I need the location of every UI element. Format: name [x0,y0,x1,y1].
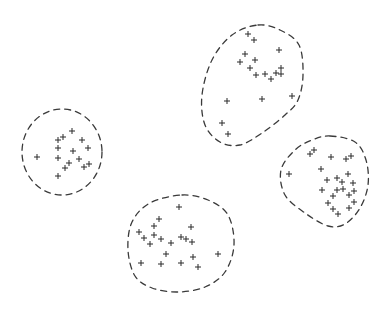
cluster-points [34,31,357,270]
cluster-boundary-bottom [128,195,234,292]
plus-marker-left-7 [34,154,40,160]
cluster-boundary-left [22,109,102,195]
plus-marker-bottom-10 [189,239,195,245]
plus-marker-right-5 [286,171,292,177]
plus-marker-left-3 [79,137,85,143]
plus-marker-top-right-14 [259,96,265,102]
plus-marker-left-11 [86,161,92,167]
plus-marker-bottom-0 [176,204,182,210]
plus-marker-right-11 [350,180,356,186]
plus-marker-right-13 [334,187,340,193]
plus-marker-bottom-12 [168,240,174,246]
plus-marker-right-1 [311,147,317,153]
plus-marker-bottom-13 [163,251,169,257]
cluster-boundary-top-right [202,25,304,146]
cluster-boundaries [22,25,368,292]
plus-marker-top-right-8 [253,72,259,78]
plus-marker-top-right-1 [251,37,257,43]
plus-marker-right-16 [330,193,336,199]
plus-marker-top-right-10 [273,70,279,76]
plus-marker-left-9 [76,156,82,162]
plus-marker-top-right-7 [278,65,284,71]
plus-marker-left-1 [60,134,66,140]
cluster-diagram [0,0,390,319]
plus-marker-bottom-7 [158,236,164,242]
plus-marker-bottom-11 [147,241,153,247]
plus-marker-right-21 [346,205,352,211]
plus-marker-left-8 [55,155,61,161]
plus-marker-bottom-3 [188,224,194,230]
plus-marker-bottom-17 [158,261,164,267]
plus-marker-right-15 [351,188,357,194]
plus-marker-left-13 [81,164,87,170]
plus-marker-bottom-15 [215,251,221,257]
plus-marker-left-4 [55,145,61,151]
plus-marker-left-2 [55,137,61,143]
plus-marker-right-8 [324,177,330,183]
plus-marker-right-6 [318,166,324,172]
plus-marker-bottom-6 [141,235,147,241]
plus-marker-left-14 [55,173,61,179]
plus-marker-top-right-0 [245,31,251,37]
plus-marker-right-4 [348,153,354,159]
plus-marker-bottom-5 [151,232,157,238]
plus-marker-right-12 [319,187,325,193]
plus-marker-right-2 [328,154,334,160]
plus-marker-left-6 [85,145,91,151]
plus-marker-right-10 [339,179,345,185]
plus-marker-top-right-16 [219,120,225,126]
plus-marker-right-14 [340,186,346,192]
plus-marker-top-right-15 [289,93,295,99]
plus-marker-left-12 [62,165,68,171]
plus-marker-top-right-4 [252,57,258,63]
plus-marker-bottom-4 [136,229,142,235]
plus-marker-bottom-19 [195,264,201,270]
plus-marker-bottom-18 [178,260,184,266]
plus-marker-right-7 [345,171,351,177]
plus-marker-bottom-1 [156,216,162,222]
plus-marker-top-right-9 [262,71,268,77]
plus-marker-left-0 [69,128,75,134]
plus-marker-right-9 [334,175,340,181]
plus-marker-bottom-2 [151,223,157,229]
plus-marker-right-17 [346,192,352,198]
plus-marker-bottom-16 [138,260,144,266]
plus-marker-right-18 [325,200,331,206]
plus-marker-right-0 [307,151,313,157]
plus-marker-top-right-17 [225,131,231,137]
plus-marker-left-10 [66,160,72,166]
plus-marker-top-right-12 [268,76,274,82]
plus-marker-bottom-14 [190,254,196,260]
plus-marker-top-right-2 [276,47,282,53]
plus-marker-right-3 [343,156,349,162]
plus-marker-right-20 [330,206,336,212]
plus-marker-right-19 [351,199,357,205]
plus-marker-top-right-11 [278,71,284,77]
plus-marker-top-right-13 [224,98,230,104]
plus-marker-top-right-5 [237,59,243,65]
cluster-boundary-right [280,136,368,227]
plus-marker-right-22 [335,211,341,217]
plus-marker-left-5 [70,148,76,154]
plus-marker-top-right-6 [247,65,253,71]
plus-marker-top-right-3 [242,51,248,57]
